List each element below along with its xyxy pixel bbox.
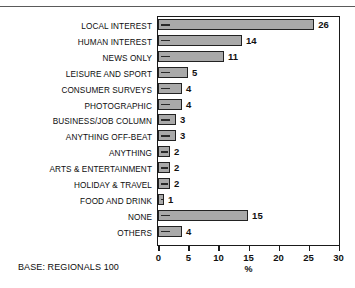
bar-value-label: 5 bbox=[192, 67, 197, 78]
bar-row: 11 bbox=[158, 51, 338, 62]
bar bbox=[158, 83, 182, 94]
bar-value-label: 3 bbox=[180, 130, 185, 141]
category-label: HUMAN INTEREST bbox=[0, 38, 152, 47]
bar-row: 2 bbox=[158, 146, 338, 157]
bar bbox=[158, 210, 248, 221]
x-tick bbox=[339, 246, 340, 251]
bar-value-label: 1 bbox=[168, 194, 173, 205]
bar-row: 3 bbox=[158, 130, 338, 141]
bar-value-label: 15 bbox=[252, 210, 263, 221]
bar-row: 26 bbox=[158, 19, 338, 30]
x-tick bbox=[218, 246, 219, 251]
bar-inner-tick bbox=[161, 72, 170, 74]
x-tick-label: 30 bbox=[319, 252, 355, 263]
bar bbox=[158, 35, 242, 46]
bar-row: 3 bbox=[158, 114, 338, 125]
bar-inner-tick bbox=[161, 24, 170, 26]
bar-inner-tick bbox=[161, 119, 170, 121]
bar bbox=[158, 19, 314, 30]
bar bbox=[158, 67, 188, 78]
bar-inner-tick bbox=[161, 104, 170, 106]
bar-value-label: 2 bbox=[174, 146, 179, 157]
category-label: NEWS ONLY bbox=[0, 54, 152, 63]
bar-value-label: 11 bbox=[228, 51, 238, 62]
bar-chart-figure: LOCAL INTERESTHUMAN INTERESTNEWS ONLYLEI… bbox=[0, 0, 355, 288]
bar-inner-tick bbox=[161, 231, 170, 233]
bar bbox=[158, 146, 170, 157]
bar-row: 5 bbox=[158, 67, 338, 78]
base-footnote: BASE: REGIONALS 100 bbox=[18, 262, 119, 272]
category-label: FOOD AND DRINK bbox=[0, 197, 152, 206]
bar-inner-tick bbox=[161, 199, 163, 201]
bar-row: 1 bbox=[158, 194, 338, 205]
category-label: LEISURE AND SPORT bbox=[0, 70, 152, 79]
bar-inner-tick bbox=[161, 56, 170, 58]
bar-inner-tick bbox=[161, 183, 168, 185]
bar-inner-tick bbox=[161, 215, 170, 217]
bar-value-label: 4 bbox=[186, 99, 191, 110]
bar-row: 2 bbox=[158, 162, 338, 173]
x-tick bbox=[309, 246, 310, 251]
bar-inner-tick bbox=[161, 88, 170, 90]
bar-row: 4 bbox=[158, 83, 338, 94]
bar bbox=[158, 99, 182, 110]
x-tick bbox=[249, 246, 250, 251]
bar-inner-tick bbox=[161, 40, 170, 42]
bar-row: 2 bbox=[158, 178, 338, 189]
category-label: ANYTHING bbox=[0, 149, 152, 158]
bar-value-label: 2 bbox=[174, 162, 179, 173]
category-axis-labels: LOCAL INTERESTHUMAN INTERESTNEWS ONLYLEI… bbox=[0, 18, 152, 246]
bar-inner-tick bbox=[161, 135, 170, 137]
category-label: PHOTOGRAPHIC bbox=[0, 102, 152, 111]
category-label: ANYTHING OFF-BEAT bbox=[0, 133, 152, 142]
x-tick bbox=[279, 246, 280, 251]
plot-frame: 261411544332221154 bbox=[157, 16, 340, 246]
plot-area: 261411544332221154 bbox=[158, 17, 339, 245]
bar-row: 14 bbox=[158, 35, 338, 46]
bar-value-label: 2 bbox=[174, 178, 179, 189]
bar bbox=[158, 114, 176, 125]
category-label: BUSINESS/JOB COLUMN bbox=[0, 117, 152, 126]
bar-value-label: 26 bbox=[318, 19, 329, 30]
bar-value-label: 3 bbox=[180, 114, 185, 125]
category-label: NONE bbox=[0, 213, 152, 222]
category-label: LOCAL INTEREST bbox=[0, 22, 152, 31]
bar bbox=[158, 130, 176, 141]
bar bbox=[158, 226, 182, 237]
bar bbox=[158, 162, 170, 173]
x-axis-title: % bbox=[157, 264, 340, 274]
category-label: HOLIDAY & TRAVEL bbox=[0, 181, 152, 190]
x-tick bbox=[188, 246, 189, 251]
category-label: ARTS & ENTERTAINMENT bbox=[0, 165, 152, 174]
bar-row: 4 bbox=[158, 226, 338, 237]
category-label: OTHERS bbox=[0, 229, 152, 238]
bar-row: 15 bbox=[158, 210, 338, 221]
bar-value-label: 4 bbox=[186, 83, 191, 94]
x-tick bbox=[158, 246, 159, 251]
category-label: CONSUMER SURVEYS bbox=[0, 86, 152, 95]
bar bbox=[158, 178, 170, 189]
bar-value-label: 14 bbox=[246, 35, 257, 46]
bar bbox=[158, 51, 224, 62]
bar bbox=[158, 194, 164, 205]
bar-inner-tick bbox=[161, 167, 168, 169]
bar-inner-tick bbox=[161, 151, 168, 153]
bar-row: 4 bbox=[158, 99, 338, 110]
bar-value-label: 4 bbox=[186, 226, 191, 237]
